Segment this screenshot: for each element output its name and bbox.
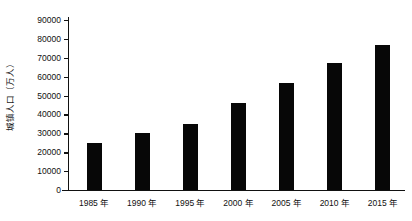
y-axis-tick-label: 10000 bbox=[37, 166, 61, 176]
y-axis-tick-label: 70000 bbox=[37, 53, 61, 63]
bar-chart: 城镇人口（万人） 0100002000030000400005000060000… bbox=[0, 0, 412, 221]
y-axis-tick-label: 0 bbox=[56, 185, 61, 195]
x-axis-tick-label: 1985 年 bbox=[79, 196, 109, 208]
y-axis-title-text: 城镇人口（万人） bbox=[3, 59, 15, 131]
bar bbox=[87, 143, 102, 190]
x-axis-tick-label: 1990 年 bbox=[127, 196, 157, 208]
y-axis-title: 城镇人口（万人） bbox=[0, 0, 18, 190]
x-axis-tick-label: 2015 年 bbox=[368, 196, 398, 208]
bar bbox=[375, 45, 390, 190]
y-axis-tick-label: 60000 bbox=[37, 72, 61, 82]
x-axis-line bbox=[62, 190, 405, 191]
y-axis-tick bbox=[64, 114, 69, 115]
y-axis-tick bbox=[64, 152, 69, 153]
x-axis-tick-label: 2005 年 bbox=[272, 196, 302, 208]
y-axis-line bbox=[68, 17, 69, 191]
y-axis-tick bbox=[64, 77, 69, 78]
x-axis-tick-label: 1995 年 bbox=[175, 196, 205, 208]
y-axis-tick-label: 50000 bbox=[37, 91, 61, 101]
bar bbox=[231, 103, 246, 190]
bar bbox=[183, 124, 198, 190]
y-axis-tick-label: 80000 bbox=[37, 34, 61, 44]
bar bbox=[135, 133, 150, 190]
y-axis-tick bbox=[64, 133, 69, 134]
x-axis-tick-label: 2010 年 bbox=[320, 196, 350, 208]
plot-area: 0100002000030000400005000060000700008000… bbox=[68, 20, 405, 190]
y-axis-tick bbox=[64, 190, 69, 191]
bar bbox=[327, 63, 342, 190]
y-axis-tick-label: 20000 bbox=[37, 147, 61, 157]
x-axis-tick-label: 2000 年 bbox=[223, 196, 253, 208]
y-axis-tick-label: 90000 bbox=[37, 15, 61, 25]
y-axis-tick bbox=[64, 171, 69, 172]
y-axis-tick-label: 40000 bbox=[37, 109, 61, 119]
y-axis-tick-label: 30000 bbox=[37, 128, 61, 138]
y-axis-tick bbox=[64, 39, 69, 40]
bar bbox=[279, 83, 294, 190]
y-axis-tick bbox=[64, 58, 69, 59]
y-axis-tick bbox=[64, 20, 69, 21]
y-axis-tick bbox=[64, 96, 69, 97]
